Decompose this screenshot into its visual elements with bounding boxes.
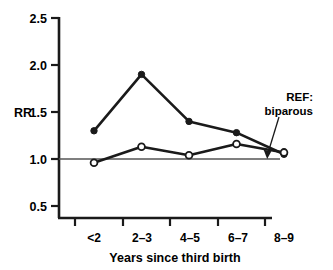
x-tick-label-1: 2–3 bbox=[132, 231, 152, 245]
x-tick-label-3: 6–7 bbox=[228, 231, 248, 245]
y-tick-label-1-0: 1.0 bbox=[30, 153, 47, 167]
x-tick-label-4: 8–9 bbox=[274, 231, 294, 245]
data-point-open-series-1 bbox=[138, 143, 145, 150]
data-point-open-series-0 bbox=[91, 159, 98, 166]
data-point-filled-series-1 bbox=[138, 71, 144, 77]
data-point-filled-series-0 bbox=[91, 128, 97, 134]
x-axis-title: Years since third birth bbox=[109, 251, 240, 265]
plot-background bbox=[0, 0, 333, 270]
data-point-filled-series-3 bbox=[233, 129, 239, 135]
x-tick-label-2: 4–5 bbox=[180, 231, 200, 245]
annotation-biparous-label: biparous bbox=[264, 105, 313, 117]
y-tick-label-1-5: 1.5 bbox=[30, 106, 47, 120]
y-tick-label-0-5: 0.5 bbox=[30, 200, 47, 214]
x-tick-label-0: <2 bbox=[87, 231, 101, 245]
data-point-open-series-4 bbox=[281, 149, 288, 156]
annotation-ref-label: REF: bbox=[286, 91, 313, 103]
data-point-filled-series-2 bbox=[186, 118, 192, 124]
chart-figure: 2.5 2.0 1.5 1.0 0.5 RR <2 2–3 4–5 6–7 8–… bbox=[0, 0, 333, 270]
line-chart: 2.5 2.0 1.5 1.0 0.5 RR <2 2–3 4–5 6–7 8–… bbox=[0, 0, 333, 270]
y-tick-label-2-5: 2.5 bbox=[30, 12, 47, 26]
y-axis-title: RR bbox=[14, 106, 32, 120]
y-tick-label-2-0: 2.0 bbox=[30, 59, 47, 73]
data-point-open-series-2 bbox=[186, 152, 193, 159]
data-point-open-series-3 bbox=[233, 141, 240, 148]
